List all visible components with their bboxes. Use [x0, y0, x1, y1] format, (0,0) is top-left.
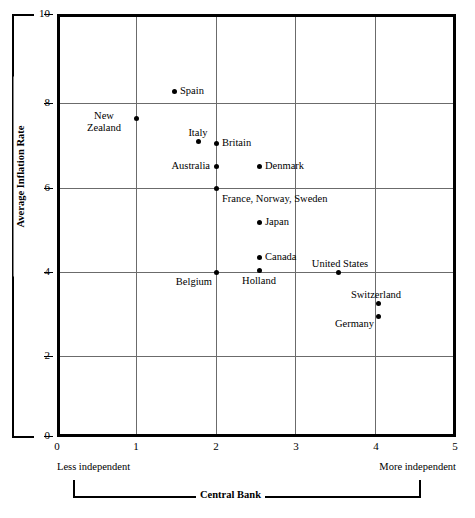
data-point-united-states[interactable]: [336, 270, 341, 275]
x-axis-bracket-left-tick: [73, 480, 75, 497]
point-label-united-states: United States: [312, 258, 368, 270]
y-axis-bracket-bottom-cap: [12, 436, 34, 438]
point-label-spain: Spain: [180, 85, 204, 97]
point-label-new-zealand-line1: New: [78, 110, 130, 122]
data-point-britain[interactable]: [214, 141, 219, 146]
gridline-x-2: [216, 17, 217, 434]
x-tick-label-0: 0: [54, 440, 60, 452]
data-point-germany[interactable]: [376, 314, 381, 319]
x-tick-label-1: 1: [133, 440, 139, 452]
data-point-belgium[interactable]: [214, 270, 219, 275]
x-axis-note-more-independent: More independent: [379, 461, 456, 472]
plot-area: Spain New Zealand Italy Britain Australi…: [57, 14, 456, 437]
data-point-france-norway-sweden[interactable]: [214, 186, 219, 191]
x-tick-label-4: 4: [373, 440, 379, 452]
data-point-holland[interactable]: [257, 268, 262, 273]
point-label-germany: Germany: [335, 318, 374, 330]
x-axis-note-less-independent: Less independent: [57, 461, 130, 472]
data-point-japan[interactable]: [257, 220, 262, 225]
data-point-denmark[interactable]: [257, 164, 262, 169]
point-label-canada: Canada: [265, 251, 297, 263]
point-label-australia: Australia: [172, 160, 211, 172]
data-point-spain[interactable]: [172, 89, 177, 94]
gridline-y-4: [60, 272, 453, 273]
data-point-australia[interactable]: [214, 164, 219, 169]
point-label-japan: Japan: [265, 216, 289, 228]
point-label-britain: Britain: [222, 137, 251, 149]
data-point-canada[interactable]: [257, 255, 262, 260]
x-tick-label-3: 3: [293, 440, 299, 452]
point-label-denmark: Denmark: [265, 160, 304, 172]
point-label-italy: Italy: [188, 127, 207, 139]
point-label-new-zealand-line2: Zealand: [78, 122, 130, 134]
x-axis-bracket-right-tick: [419, 480, 421, 497]
x-axis-title: Central Bank: [196, 489, 265, 500]
gridline-x-4: [375, 17, 376, 434]
point-label-belgium: Belgium: [176, 276, 212, 288]
y-axis-bracket-top-cap: [12, 14, 34, 16]
point-label-new-zealand: New Zealand: [78, 110, 130, 133]
gridline-x-1: [136, 17, 137, 434]
gridline-x-3: [295, 17, 296, 434]
data-point-italy[interactable]: [196, 139, 201, 144]
data-point-new-zealand[interactable]: [134, 116, 139, 121]
x-tick-label-5: 5: [452, 440, 458, 452]
scatter-plot-figure: Average Inflation Rate 10 8 6 4 2 0: [0, 0, 475, 518]
gridline-y-2: [60, 356, 453, 357]
gridline-y-6: [60, 188, 453, 189]
x-tick-label-2: 2: [213, 440, 219, 452]
point-label-holland: Holland: [242, 275, 276, 287]
point-label-france-norway-sweden: France, Norway, Sweden: [222, 193, 327, 205]
gridline-y-8: [60, 103, 453, 104]
y-axis-title: Average Inflation Rate: [14, 77, 27, 277]
data-point-switzerland[interactable]: [376, 301, 381, 306]
point-label-switzerland: Switzerland: [351, 289, 401, 301]
